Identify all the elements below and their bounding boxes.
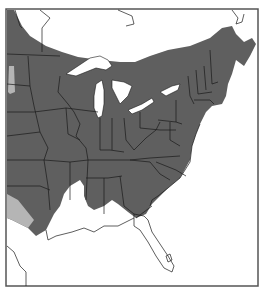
range-map (0, 0, 268, 296)
lake-michigan (94, 80, 104, 118)
